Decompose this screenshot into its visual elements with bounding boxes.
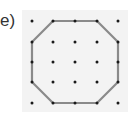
grid-dot bbox=[31, 81, 34, 84]
grid-dot bbox=[117, 102, 120, 105]
grid-dot bbox=[31, 41, 34, 44]
grid-dot bbox=[96, 81, 99, 84]
grid-dot bbox=[31, 20, 34, 23]
geoboard-diagram bbox=[0, 0, 128, 114]
grid-dot bbox=[117, 41, 120, 44]
grid-dot bbox=[96, 20, 99, 23]
grid-dot bbox=[117, 20, 120, 23]
grid-dot bbox=[74, 102, 77, 105]
grid-dot bbox=[96, 61, 99, 64]
grid-dot bbox=[52, 61, 55, 64]
grid-dot bbox=[74, 61, 77, 64]
grid-dot bbox=[31, 61, 34, 64]
dot-grid bbox=[31, 20, 120, 105]
grid-dot bbox=[31, 102, 34, 105]
grid-dot bbox=[96, 41, 99, 44]
grid-dot bbox=[52, 81, 55, 84]
grid-dot bbox=[52, 41, 55, 44]
grid-dot bbox=[117, 81, 120, 84]
grid-dot bbox=[117, 61, 120, 64]
grid-dot bbox=[74, 41, 77, 44]
grid-dot bbox=[52, 20, 55, 23]
grid-dot bbox=[52, 102, 55, 105]
grid-dot bbox=[74, 20, 77, 23]
grid-dot bbox=[74, 81, 77, 84]
grid-dot bbox=[96, 102, 99, 105]
